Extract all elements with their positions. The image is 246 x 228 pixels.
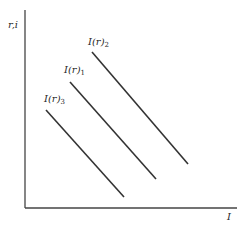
y-axis-label: r,i [8, 20, 18, 30]
curve-i-r-1 [70, 82, 156, 179]
curve-label-subscript: 3 [61, 98, 65, 106]
curve-label-base: I(r) [88, 36, 105, 47]
curve-label-base: I(r) [44, 93, 61, 104]
curve-label-base: I(r) [64, 64, 81, 75]
curve-label-i-r-3: I(r)3 [44, 94, 65, 106]
diagram: r,i I I(r)3 I(r)1 I(r)2 [0, 0, 246, 228]
curve-i-r-2 [92, 52, 188, 164]
x-axis-label: I [227, 212, 231, 222]
curve-label-i-r-1: I(r)1 [64, 65, 85, 77]
curve-label-subscript: 2 [105, 41, 109, 49]
curve-label-subscript: 1 [81, 69, 85, 77]
diagram-canvas [0, 0, 246, 228]
curve-label-i-r-2: I(r)2 [88, 37, 109, 49]
curve-i-r-3 [46, 110, 124, 197]
